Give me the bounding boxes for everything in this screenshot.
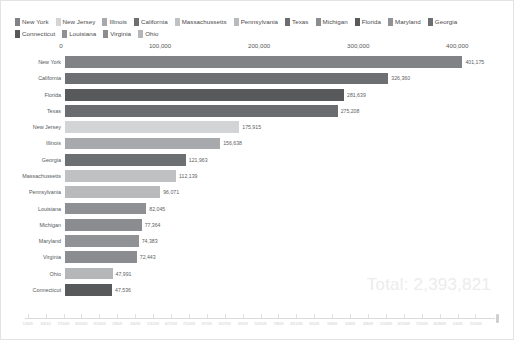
legend-item[interactable]: Florida (355, 16, 381, 27)
legend-item-label: Georgia (435, 17, 457, 26)
slider-tickmark (404, 314, 405, 318)
bar[interactable] (65, 251, 137, 263)
x-axis-tick-label: 400,000 (446, 42, 468, 49)
bar[interactable] (65, 170, 176, 182)
bar[interactable] (65, 203, 146, 215)
bar-row[interactable]: New York401,175 (21, 54, 491, 70)
legend-swatch-icon (102, 18, 107, 26)
timeline-tick-label: 7/15/09 (58, 322, 70, 326)
bar-category-label: Michigan (21, 222, 65, 228)
bar-row[interactable]: Pennsylvania96,071 (21, 184, 491, 200)
bar-row[interactable]: Florida281,639 (21, 87, 491, 103)
bar-category-label: Georgia (21, 157, 65, 163)
bar-category-label: New Jersey (21, 124, 65, 130)
bar[interactable] (65, 154, 186, 166)
slider-tickmark (440, 314, 441, 318)
slider-tickmark (81, 314, 82, 318)
bar-track: 96,071 (65, 184, 491, 200)
bar-category-label: Texas (21, 108, 65, 114)
timeline-tick-label: 2/8/09 (112, 322, 122, 326)
legend-item[interactable]: Virginia (103, 28, 131, 39)
bar[interactable] (65, 56, 462, 68)
bar-track: 175,915 (65, 119, 491, 135)
bar-value-label: 401,175 (462, 59, 484, 65)
legend-swatch-icon (285, 18, 290, 26)
slider-track[interactable] (25, 318, 495, 319)
slider-tickmark (368, 314, 369, 318)
timeline-tick-label: 9/27/09 (219, 322, 231, 326)
bar-row[interactable]: California326,360 (21, 70, 491, 86)
bar-category-label: Maryland (21, 238, 65, 244)
bar-row[interactable]: New Jersey175,915 (21, 119, 491, 135)
slider-tickmark (28, 314, 29, 318)
bar-row[interactable]: Illinois156,638 (21, 135, 491, 151)
slider-tickmark (386, 314, 387, 318)
bar-track: 401,175 (65, 54, 491, 70)
bar-track: 77,364 (65, 217, 491, 233)
bar[interactable] (65, 219, 142, 231)
timeline-tick-label: 9/24/09 (93, 322, 105, 326)
legend-item-label: Florida (362, 17, 381, 26)
legend-item[interactable]: Georgia (428, 16, 457, 27)
legend-swatch-icon (103, 30, 108, 38)
slider-tickmark (422, 314, 423, 318)
bar-row[interactable]: Louisiana82,045 (21, 200, 491, 216)
legend-item[interactable]: New York (15, 16, 49, 27)
bar-row[interactable]: Michigan77,364 (21, 217, 491, 233)
legend-item-label: Ohio (145, 29, 158, 38)
timeline-tick-label: 7/8/09 (273, 322, 283, 326)
timeline-tick-label: 8/28/09 (434, 322, 446, 326)
timeline-tick-label: 4/8/09 (363, 322, 373, 326)
legend-item[interactable]: Connecticut (15, 28, 55, 39)
slider-tickmark (153, 314, 154, 318)
timeline-tick-label: 8/12/09 (290, 322, 302, 326)
bar-row[interactable]: Georgia121,963 (21, 152, 491, 168)
legend-item[interactable]: Pennsylvania (234, 16, 278, 27)
bar-row[interactable]: Massachussetts112,139 (21, 168, 491, 184)
slider-tickmark (225, 314, 226, 318)
legend-item[interactable]: Massachussetts (175, 16, 227, 27)
slider-tickmark (46, 314, 47, 318)
slider-tickmark (458, 314, 459, 318)
bar[interactable] (65, 138, 220, 150)
legend-swatch-icon (175, 18, 180, 26)
legend-item-label: Pennsylvania (241, 17, 278, 26)
timeline-slider[interactable]: 1/3/096/6/107/15/098/20/099/24/092/8/094… (13, 309, 505, 333)
slider-handle[interactable] (496, 314, 499, 323)
legend-item[interactable]: Ohio (138, 28, 158, 39)
timeline-tick-label: 7/10/09 (469, 322, 481, 326)
legend-swatch-icon (15, 18, 20, 26)
legend-item[interactable]: Michigan (316, 16, 348, 27)
legend-item[interactable]: Illinois (102, 16, 127, 27)
legend-item[interactable]: Louisiana (62, 28, 96, 39)
bar-row[interactable]: Texas275,208 (21, 103, 491, 119)
bar-row[interactable]: Maryland74,383 (21, 233, 491, 249)
bar[interactable] (65, 235, 139, 247)
bar-value-label: 156,638 (220, 140, 242, 146)
x-axis-top: 0100,000200,000300,000400,000 (61, 42, 487, 54)
bar-category-label: Massachussetts (21, 173, 65, 179)
legend-item[interactable]: Maryland (388, 16, 421, 27)
timeline-tick-label: 6/19/09 (398, 322, 410, 326)
legend-swatch-icon (15, 30, 20, 38)
bar[interactable] (65, 121, 239, 133)
timeline-tick-label: 5/11/09 (147, 322, 159, 326)
bar[interactable] (65, 105, 338, 117)
bar[interactable] (65, 73, 388, 85)
bar-track: 82,045 (65, 200, 491, 216)
bar-row[interactable]: Virginia72,443 (21, 249, 491, 265)
legend-item[interactable]: Texas (285, 16, 308, 27)
bar[interactable] (65, 186, 160, 198)
slider-tickmark (278, 314, 279, 318)
bar[interactable] (65, 268, 113, 280)
slider-tickmark (243, 314, 244, 318)
legend-item[interactable]: New Jersey (56, 16, 96, 27)
bar-value-label: 112,139 (176, 173, 197, 179)
bar-value-label: 96,071 (160, 189, 179, 195)
bar-category-label: Illinois (21, 140, 65, 146)
bar[interactable] (65, 89, 344, 101)
legend-item[interactable]: California (134, 16, 168, 27)
bar-category-label: Florida (21, 92, 65, 98)
bar[interactable] (65, 284, 112, 296)
bar-value-label: 72,443 (137, 254, 156, 260)
